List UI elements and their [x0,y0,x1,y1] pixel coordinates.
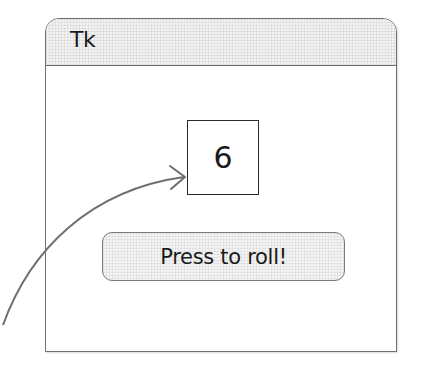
die-value: 6 [213,140,232,175]
roll-button[interactable]: Press to roll! [102,232,345,281]
window-titlebar[interactable]: Tk [46,19,396,66]
tk-window: Tk 6 Press to roll! [45,18,397,352]
window-title: Tk [70,27,95,52]
die-display: 6 [187,120,259,195]
roll-button-label: Press to roll! [160,245,287,269]
